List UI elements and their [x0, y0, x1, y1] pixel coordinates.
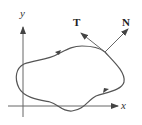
y-axis-label: y	[19, 7, 25, 19]
diagram-canvas: y x T N	[0, 0, 142, 125]
tangent-label: T	[73, 16, 81, 28]
normal-label: N	[122, 16, 130, 28]
x-axis-label: x	[120, 99, 126, 111]
closed-curve	[16, 46, 124, 111]
tangent-vector	[81, 33, 105, 52]
normal-vector	[105, 29, 128, 52]
